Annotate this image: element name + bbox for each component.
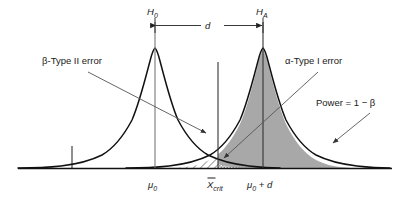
beta-leader-group xyxy=(88,72,206,133)
figure-canvas: H0 HA d β-Type II error α-Type I error P… xyxy=(0,0,405,199)
ha-label: HA xyxy=(256,6,268,19)
mu0-axis-label: μ0 xyxy=(147,179,157,192)
power-leader-line xyxy=(333,113,370,143)
power-label: Power = 1 − β xyxy=(316,97,376,108)
beta-leader-line xyxy=(88,72,206,133)
power-analysis-figure: H0 HA d β-Type II error α-Type I error P… xyxy=(0,0,405,199)
power-leader-group xyxy=(333,113,370,143)
xcrit-axis-label-group: Xcrit xyxy=(206,178,224,192)
mu0-plus-d-axis-label: μ0 + d xyxy=(246,179,273,192)
xcrit-axis-label: Xcrit xyxy=(206,179,224,192)
h0-label: H0 xyxy=(147,6,158,19)
alpha-type-i-error-label: α-Type I error xyxy=(285,55,342,66)
effect-size-label: d xyxy=(205,20,211,31)
beta-type-ii-error-label: β-Type II error xyxy=(42,55,102,66)
